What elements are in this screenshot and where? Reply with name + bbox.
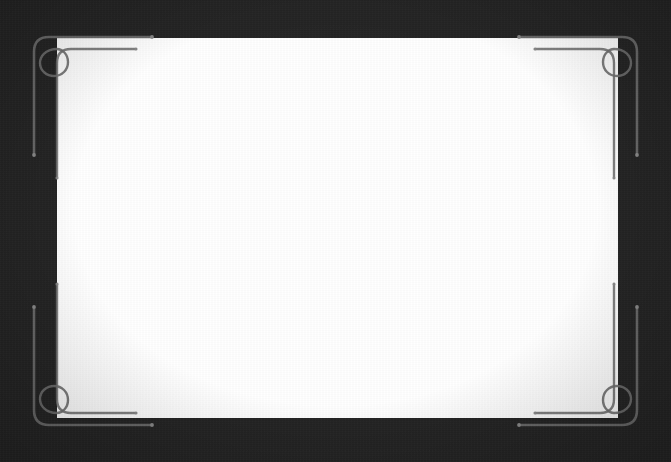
- panel-body-text: [57, 38, 618, 418]
- slide-canvas: ········································…: [0, 0, 671, 462]
- bottom-caption-text: ········································…: [197, 445, 473, 455]
- bottom-caption: ········································…: [0, 441, 671, 458]
- content-panel[interactable]: [57, 38, 618, 418]
